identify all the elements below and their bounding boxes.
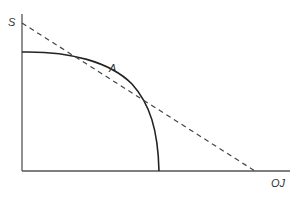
tangent-dashed-line <box>22 23 255 171</box>
ppf-diagram: S A OJ <box>0 0 296 197</box>
frontier-curve <box>22 52 159 171</box>
x-axis-label: OJ <box>271 177 286 189</box>
point-label-a: A <box>108 62 116 74</box>
y-axis-label: S <box>8 16 16 28</box>
